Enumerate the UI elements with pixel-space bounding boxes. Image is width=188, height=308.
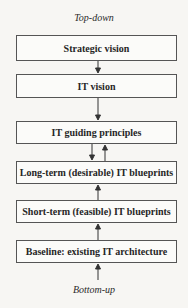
arrow-up-icon	[103, 145, 108, 161]
arrow-up-icon	[96, 224, 101, 240]
arrow-down-icon	[96, 98, 101, 120]
arrow-up-icon	[96, 185, 101, 200]
arrow-up-icon	[96, 264, 101, 280]
flow-arrows	[0, 0, 188, 308]
bottom-up-label: Bottom-up	[0, 284, 188, 295]
arrow-down-icon	[96, 61, 101, 73]
arrow-down-icon	[90, 144, 95, 160]
